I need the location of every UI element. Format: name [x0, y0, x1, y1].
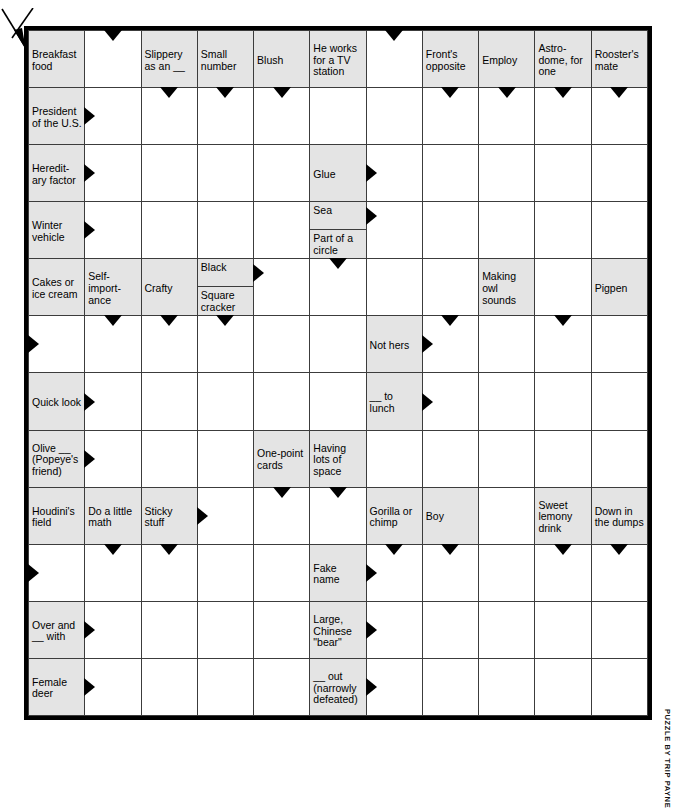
answer-cell[interactable] — [254, 145, 310, 202]
clue-cell-slippery-as-an[interactable]: Slippery as an __ — [141, 31, 197, 88]
answer-cell[interactable] — [422, 544, 478, 601]
clue-cell-not-hers[interactable]: Not hers — [366, 316, 422, 373]
answer-cell[interactable] — [197, 658, 253, 715]
answer-cell[interactable] — [310, 259, 366, 316]
answer-cell[interactable] — [141, 373, 197, 430]
answer-cell[interactable] — [422, 259, 478, 316]
answer-cell[interactable] — [254, 316, 310, 373]
answer-cell[interactable] — [366, 88, 422, 145]
answer-cell[interactable] — [479, 145, 535, 202]
answer-cell[interactable] — [197, 544, 253, 601]
answer-cell[interactable] — [422, 88, 478, 145]
answer-cell[interactable] — [29, 316, 85, 373]
answer-cell[interactable] — [197, 145, 253, 202]
clue-cell-astrodome[interactable]: Astro-dome, for one — [535, 31, 591, 88]
answer-cell[interactable] — [254, 487, 310, 544]
clue-cell-self-importance[interactable]: Self-import-ance — [85, 259, 141, 316]
answer-cell[interactable] — [366, 430, 422, 487]
answer-cell[interactable] — [422, 145, 478, 202]
answer-cell[interactable] — [535, 145, 591, 202]
answer-cell[interactable] — [479, 88, 535, 145]
clue-cell-houdinis-field[interactable]: Houdini's field — [29, 487, 85, 544]
clue-cell-down-in-the-dumps[interactable]: Down in the dumps — [591, 487, 647, 544]
clue-cell-large-chinese-bear[interactable]: Large, Chinese "bear" — [310, 601, 366, 658]
answer-cell[interactable] — [141, 430, 197, 487]
clue-cell-do-a-little-math[interactable]: Do a little math — [85, 487, 141, 544]
answer-cell[interactable] — [535, 544, 591, 601]
answer-cell[interactable] — [85, 544, 141, 601]
answer-cell[interactable] — [141, 316, 197, 373]
clue-cell-split-black-square-cracker[interactable]: Black Square cracker — [197, 259, 253, 316]
answer-cell[interactable] — [366, 31, 422, 88]
clue-cell-fronts-opposite[interactable]: Front's opposite — [422, 31, 478, 88]
answer-cell[interactable] — [479, 658, 535, 715]
answer-cell[interactable] — [85, 316, 141, 373]
clue-cell-he-works-tv[interactable]: He works for a TV station — [310, 31, 366, 88]
answer-cell[interactable] — [197, 373, 253, 430]
answer-cell[interactable] — [591, 601, 647, 658]
clue-cell-small-number[interactable]: Small number — [197, 31, 253, 88]
answer-cell[interactable] — [479, 487, 535, 544]
clue-cell-split-sea-part-of-circle[interactable]: Sea Part of a circle — [310, 202, 366, 259]
answer-cell[interactable] — [535, 316, 591, 373]
clue-cell-boy[interactable]: Boy — [422, 487, 478, 544]
answer-cell[interactable] — [591, 88, 647, 145]
answer-cell[interactable] — [85, 88, 141, 145]
answer-cell[interactable] — [535, 658, 591, 715]
answer-cell[interactable] — [254, 658, 310, 715]
clue-cell-winter-vehicle[interactable]: Winter vehicle — [29, 202, 85, 259]
answer-cell[interactable] — [591, 202, 647, 259]
answer-cell[interactable] — [254, 601, 310, 658]
clue-cell-out-narrowly-defeated[interactable]: __ out (narrowly defeated) — [310, 658, 366, 715]
clue-cell-roosters-mate[interactable]: Rooster's mate — [591, 31, 647, 88]
clue-cell-sweet-lemony-drink[interactable]: Sweet lemony drink — [535, 487, 591, 544]
clue-cell-fake-name[interactable]: Fake name — [310, 544, 366, 601]
answer-cell[interactable] — [197, 88, 253, 145]
answer-cell[interactable] — [591, 373, 647, 430]
answer-cell[interactable] — [85, 373, 141, 430]
answer-cell[interactable] — [422, 373, 478, 430]
clue-cell-olive[interactable]: Olive __ (Popeye's friend) — [29, 430, 85, 487]
answer-cell[interactable] — [535, 88, 591, 145]
clue-cell-sticky-stuff[interactable]: Sticky stuff — [141, 487, 197, 544]
clue-cell-one-point-cards[interactable]: One-point cards — [254, 430, 310, 487]
answer-cell[interactable] — [85, 601, 141, 658]
clue-cell-female-deer[interactable]: Female deer — [29, 658, 85, 715]
clue-cell-crafty[interactable]: Crafty — [141, 259, 197, 316]
answer-cell[interactable] — [141, 88, 197, 145]
answer-cell[interactable] — [254, 544, 310, 601]
clue-cell-making-owl-sounds[interactable]: Making owl sounds — [479, 259, 535, 316]
answer-cell[interactable] — [310, 316, 366, 373]
clue-cell-blush[interactable]: Blush — [254, 31, 310, 88]
answer-cell[interactable] — [141, 202, 197, 259]
answer-cell[interactable] — [479, 601, 535, 658]
answer-cell[interactable] — [591, 430, 647, 487]
answer-cell[interactable] — [422, 601, 478, 658]
answer-cell[interactable] — [366, 658, 422, 715]
answer-cell[interactable] — [479, 202, 535, 259]
answer-cell[interactable] — [591, 316, 647, 373]
answer-cell[interactable] — [85, 658, 141, 715]
answer-cell[interactable] — [29, 544, 85, 601]
answer-cell[interactable] — [535, 430, 591, 487]
clue-cell-over-and-with[interactable]: Over and __ with — [29, 601, 85, 658]
answer-cell[interactable] — [197, 202, 253, 259]
answer-cell[interactable] — [366, 202, 422, 259]
clue-cell-breakfast-food[interactable]: Breakfast food — [29, 31, 85, 88]
clue-cell-glue[interactable]: Glue — [310, 145, 366, 202]
clue-cell-president[interactable]: President of the U.S. — [29, 88, 85, 145]
answer-cell[interactable] — [254, 259, 310, 316]
answer-cell[interactable] — [197, 430, 253, 487]
answer-cell[interactable] — [254, 88, 310, 145]
answer-cell[interactable] — [479, 544, 535, 601]
answer-cell[interactable] — [197, 487, 253, 544]
answer-cell[interactable] — [422, 316, 478, 373]
answer-cell[interactable] — [254, 373, 310, 430]
answer-cell[interactable] — [479, 316, 535, 373]
answer-cell[interactable] — [310, 373, 366, 430]
clue-cell-to-lunch[interactable]: __ to lunch — [366, 373, 422, 430]
answer-cell[interactable] — [366, 544, 422, 601]
clue-cell-hereditary[interactable]: Heredit-ary factor — [29, 145, 85, 202]
clue-cell-quick-look[interactable]: Quick look — [29, 373, 85, 430]
clue-cell-employ[interactable]: Employ — [479, 31, 535, 88]
